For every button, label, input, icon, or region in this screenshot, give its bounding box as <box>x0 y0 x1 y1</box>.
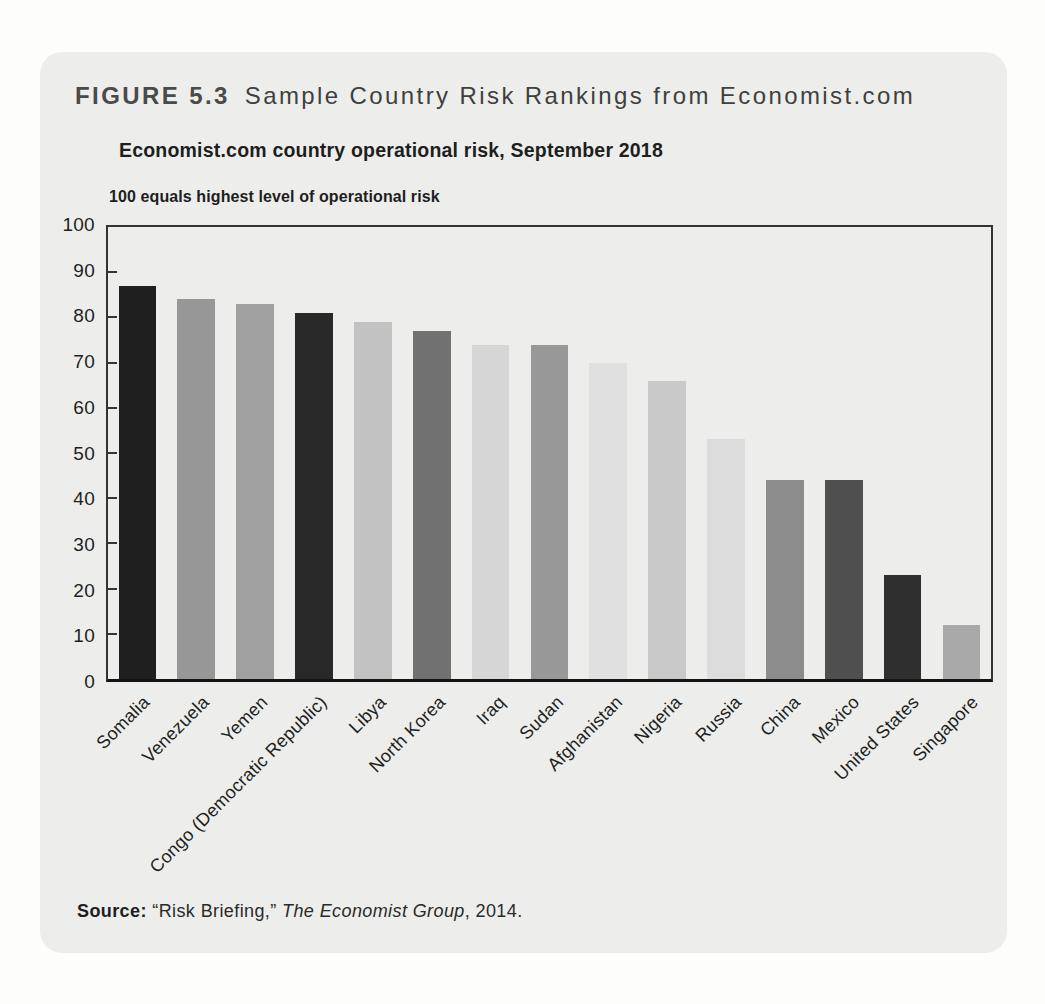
y-tick-label: 40 <box>35 488 95 510</box>
bar-slot <box>226 227 285 679</box>
bar-slot <box>520 227 579 679</box>
y-axis-labels: 0102030405060708090100 <box>35 225 95 682</box>
bar <box>531 345 569 679</box>
x-tick-label: Russia <box>691 692 746 747</box>
bar-slot <box>814 227 873 679</box>
source-line: Source: “Risk Briefing,” The Economist G… <box>77 901 523 922</box>
bar <box>472 345 510 679</box>
y-tick-mark <box>108 542 117 544</box>
source-quote: “Risk Briefing,” <box>152 901 276 921</box>
bar <box>413 331 451 679</box>
y-tick-mark <box>108 452 117 454</box>
y-tick-label: 90 <box>35 260 95 282</box>
bar <box>119 286 157 679</box>
y-tick-label: 10 <box>35 625 95 647</box>
bar-slot <box>638 227 697 679</box>
bar-slot <box>343 227 402 679</box>
bar-slot <box>697 227 756 679</box>
bar <box>884 575 922 679</box>
bar <box>943 625 981 679</box>
y-axis-note: 100 equals highest level of operational … <box>109 188 440 206</box>
bar <box>825 480 863 679</box>
bar-slot <box>873 227 932 679</box>
bar <box>707 439 745 679</box>
figure-number: FIGURE 5.3 <box>75 82 230 109</box>
x-tick-label: Libya <box>345 692 391 738</box>
bar <box>177 299 215 679</box>
bar-slot <box>579 227 638 679</box>
y-tick-mark <box>108 407 117 409</box>
bars-container <box>108 227 991 679</box>
y-tick-mark <box>108 497 117 499</box>
y-tick-label: 100 <box>35 214 95 236</box>
chart-heading: Economist.com country operational risk, … <box>119 139 663 162</box>
source-publisher: The Economist Group <box>282 901 465 921</box>
x-tick-label: Mexico <box>808 692 864 748</box>
y-tick-label: 60 <box>35 397 95 419</box>
bar-slot <box>755 227 814 679</box>
source-label: Source: <box>77 901 147 921</box>
figure-title-text: Sample Country Risk Rankings from Econom… <box>245 82 915 109</box>
y-tick-mark <box>108 271 117 273</box>
y-tick-mark <box>108 633 117 635</box>
plot-area <box>106 225 993 682</box>
bar-slot <box>167 227 226 679</box>
y-tick-label: 0 <box>35 671 95 693</box>
bar <box>589 363 627 679</box>
bar-slot <box>285 227 344 679</box>
y-tick-label: 30 <box>35 534 95 556</box>
bar-slot <box>402 227 461 679</box>
bar-slot <box>932 227 991 679</box>
bar <box>295 313 333 679</box>
y-tick-label: 70 <box>35 351 95 373</box>
x-axis-labels: SomaliaVenezuelaYemenCongo (Democratic R… <box>106 682 993 912</box>
source-year: , 2014. <box>465 901 523 921</box>
x-tick-label: Nigeria <box>630 692 686 748</box>
y-tick-mark <box>108 588 117 590</box>
figure-title: FIGURE 5.3 Sample Country Risk Rankings … <box>75 82 915 110</box>
x-tick-label: Sudan <box>516 692 568 744</box>
y-tick-label: 20 <box>35 580 95 602</box>
bar <box>766 480 804 679</box>
bar <box>648 381 686 679</box>
x-tick-label: Yemen <box>218 692 273 747</box>
y-tick-mark <box>108 316 117 318</box>
y-tick-mark <box>108 362 117 364</box>
x-tick-label: China <box>756 692 805 741</box>
bar <box>236 304 274 679</box>
x-tick-label: Iraq <box>472 692 509 729</box>
y-tick-label: 80 <box>35 305 95 327</box>
bar <box>354 322 392 679</box>
bar-chart: 0102030405060708090100 SomaliaVenezuelaY… <box>106 225 993 682</box>
figure-panel: FIGURE 5.3 Sample Country Risk Rankings … <box>40 52 1007 953</box>
bar-slot <box>461 227 520 679</box>
y-tick-label: 50 <box>35 443 95 465</box>
